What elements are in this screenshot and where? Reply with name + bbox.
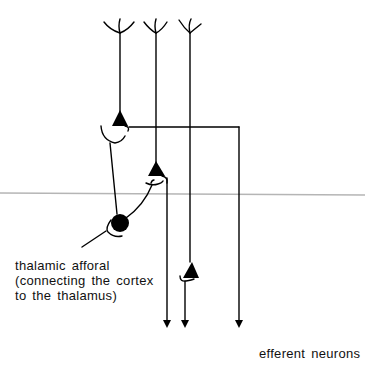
efferent-axon-3	[180, 276, 194, 322]
cortex-boundary-line	[0, 193, 365, 195]
neuron-diagram	[0, 0, 365, 375]
dendrite-tree-3	[179, 19, 201, 262]
dendrite-tree-2	[144, 19, 167, 164]
arrowhead-axon-2	[163, 320, 171, 328]
efferent-neurons-label: efferent neurons	[259, 346, 360, 361]
arrowhead-axon-3	[181, 320, 189, 328]
synapse-cup-1	[101, 126, 125, 214]
pyramidal-neuron-1	[112, 110, 128, 126]
pyramidal-neuron-2	[148, 161, 165, 176]
pyramidal-neuron-3	[183, 262, 199, 278]
thalamic-afferent-label: thalamic afforal (connecting the cortex …	[15, 258, 154, 303]
arrowhead-axon-1	[235, 320, 243, 328]
synapse-cup-2	[126, 180, 163, 218]
afferent-label-line-1: thalamic afforal	[15, 258, 154, 273]
thalamic-cell-body	[111, 214, 129, 232]
efferent-axon-2	[162, 176, 167, 322]
dendrite-tree-1	[104, 19, 134, 112]
afferent-label-line-2: (connecting the cortex	[15, 273, 154, 288]
afferent-label-line-3: to the thalamus)	[15, 288, 154, 303]
